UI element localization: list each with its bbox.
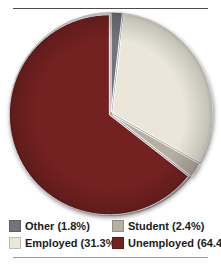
legend-label-employed: Employed (31.3%) [25,237,119,249]
legend-swatch-student [112,220,124,232]
chart-legend: Other (1.8%) Student (2.4%) Employed (31… [9,219,216,249]
legend-swatch-other [9,220,21,232]
bottom-divider [13,257,208,258]
pie-slices [9,12,212,215]
legend-item-unemployed: Unemployed (64.4%) [112,236,221,249]
legend-item-other: Other (1.8%) [9,219,112,232]
legend-label-student: Student (2.4%) [128,220,204,232]
legend-swatch-unemployed [112,237,124,249]
legend-label-other: Other (1.8%) [25,220,90,232]
legend-label-unemployed: Unemployed (64.4%) [128,237,221,249]
legend-swatch-employed [9,237,21,249]
pie-chart-figure: Other (1.8%) Student (2.4%) Employed (31… [0,0,221,272]
legend-item-employed: Employed (31.3%) [9,236,112,249]
legend-item-student: Student (2.4%) [112,219,221,232]
